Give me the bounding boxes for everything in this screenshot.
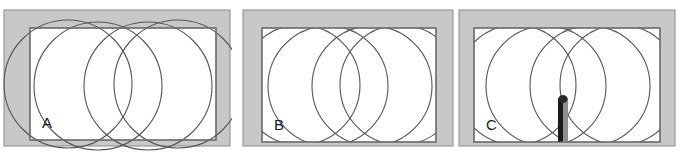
person-body-light xyxy=(563,98,568,142)
panel-c-label: C xyxy=(486,116,497,133)
panel-b-room-floor xyxy=(262,28,436,142)
panel-c-canvas: C xyxy=(458,0,678,162)
person-icon xyxy=(558,95,568,142)
panel-b-canvas: B xyxy=(242,0,456,162)
person-body-dark xyxy=(558,98,563,142)
person-head xyxy=(559,95,568,103)
panel-a-label: A xyxy=(42,114,52,131)
panel-b-label: B xyxy=(274,116,284,133)
three-panel-figure: A B xyxy=(0,0,692,162)
panel-b: B xyxy=(242,0,456,162)
panel-a-canvas: A xyxy=(2,0,232,162)
panel-a: A xyxy=(2,0,232,162)
panel-c: C xyxy=(458,0,678,162)
panel-a-room-floor xyxy=(30,28,216,140)
